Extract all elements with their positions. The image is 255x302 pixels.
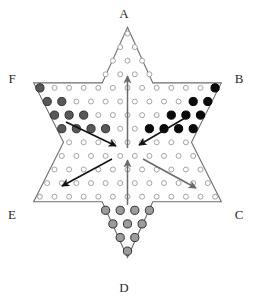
empty-hole[interactable] (96, 113, 101, 118)
empty-hole[interactable] (81, 140, 86, 145)
empty-hole[interactable] (110, 113, 115, 118)
empty-hole[interactable] (67, 140, 72, 145)
empty-hole[interactable] (169, 194, 174, 199)
empty-hole[interactable] (125, 58, 130, 63)
empty-hole[interactable] (132, 72, 137, 77)
peg-d[interactable] (131, 233, 139, 241)
empty-hole[interactable] (176, 153, 181, 158)
empty-hole[interactable] (147, 153, 152, 158)
peg-d[interactable] (123, 220, 131, 228)
empty-hole[interactable] (110, 167, 115, 172)
empty-hole[interactable] (176, 99, 181, 104)
empty-hole[interactable] (140, 194, 145, 199)
empty-hole[interactable] (37, 194, 42, 199)
peg-f[interactable] (50, 111, 58, 119)
empty-hole[interactable] (74, 153, 79, 158)
peg-f[interactable] (58, 97, 66, 105)
peg-f[interactable] (65, 111, 73, 119)
empty-hole[interactable] (132, 181, 137, 186)
empty-hole[interactable] (169, 140, 174, 145)
peg-b[interactable] (211, 84, 219, 92)
empty-hole[interactable] (67, 85, 72, 90)
empty-hole[interactable] (125, 31, 130, 36)
peg-f[interactable] (36, 84, 44, 92)
empty-hole[interactable] (205, 181, 210, 186)
empty-hole[interactable] (118, 181, 123, 186)
empty-hole[interactable] (96, 140, 101, 145)
empty-hole[interactable] (52, 85, 57, 90)
empty-hole[interactable] (89, 99, 94, 104)
peg-b[interactable] (145, 125, 153, 133)
empty-hole[interactable] (110, 58, 115, 63)
empty-hole[interactable] (154, 140, 159, 145)
empty-hole[interactable] (52, 167, 57, 172)
empty-hole[interactable] (118, 99, 123, 104)
empty-hole[interactable] (118, 72, 123, 77)
peg-d[interactable] (138, 220, 146, 228)
empty-hole[interactable] (52, 194, 57, 199)
peg-b[interactable] (175, 125, 183, 133)
empty-hole[interactable] (213, 194, 218, 199)
peg-f[interactable] (80, 111, 88, 119)
empty-hole[interactable] (147, 99, 152, 104)
empty-hole[interactable] (81, 194, 86, 199)
empty-hole[interactable] (110, 194, 115, 199)
empty-hole[interactable] (140, 113, 145, 118)
peg-b[interactable] (204, 97, 212, 105)
empty-hole[interactable] (110, 85, 115, 90)
empty-hole[interactable] (147, 72, 152, 77)
empty-hole[interactable] (140, 58, 145, 63)
empty-hole[interactable] (103, 181, 108, 186)
empty-hole[interactable] (118, 126, 123, 131)
empty-hole[interactable] (162, 153, 167, 158)
peg-d[interactable] (145, 206, 153, 214)
peg-b[interactable] (167, 111, 175, 119)
empty-hole[interactable] (89, 153, 94, 158)
empty-hole[interactable] (132, 126, 137, 131)
empty-hole[interactable] (103, 72, 108, 77)
peg-d[interactable] (116, 233, 124, 241)
peg-b[interactable] (189, 125, 197, 133)
empty-hole[interactable] (183, 85, 188, 90)
empty-hole[interactable] (132, 99, 137, 104)
empty-hole[interactable] (154, 194, 159, 199)
empty-hole[interactable] (183, 167, 188, 172)
empty-hole[interactable] (118, 153, 123, 158)
empty-hole[interactable] (74, 181, 79, 186)
empty-hole[interactable] (118, 45, 123, 50)
empty-hole[interactable] (140, 85, 145, 90)
empty-hole[interactable] (154, 85, 159, 90)
empty-hole[interactable] (59, 153, 64, 158)
empty-hole[interactable] (198, 85, 203, 90)
empty-hole[interactable] (96, 194, 101, 199)
empty-hole[interactable] (198, 194, 203, 199)
empty-hole[interactable] (89, 181, 94, 186)
empty-hole[interactable] (81, 167, 86, 172)
peg-b[interactable] (196, 111, 204, 119)
empty-hole[interactable] (67, 167, 72, 172)
empty-hole[interactable] (147, 181, 152, 186)
empty-hole[interactable] (132, 45, 137, 50)
empty-hole[interactable] (176, 181, 181, 186)
peg-b[interactable] (182, 111, 190, 119)
peg-d[interactable] (123, 247, 131, 255)
empty-hole[interactable] (103, 99, 108, 104)
empty-hole[interactable] (81, 85, 86, 90)
empty-hole[interactable] (191, 153, 196, 158)
empty-hole[interactable] (198, 167, 203, 172)
empty-hole[interactable] (140, 167, 145, 172)
empty-hole[interactable] (74, 99, 79, 104)
empty-hole[interactable] (183, 140, 188, 145)
peg-b[interactable] (189, 97, 197, 105)
peg-d[interactable] (102, 206, 110, 214)
peg-d[interactable] (109, 220, 117, 228)
empty-hole[interactable] (169, 167, 174, 172)
peg-f[interactable] (58, 125, 66, 133)
empty-hole[interactable] (96, 85, 101, 90)
empty-hole[interactable] (162, 181, 167, 186)
peg-f[interactable] (43, 97, 51, 105)
empty-hole[interactable] (67, 194, 72, 199)
empty-hole[interactable] (103, 153, 108, 158)
peg-f[interactable] (102, 125, 110, 133)
empty-hole[interactable] (183, 194, 188, 199)
